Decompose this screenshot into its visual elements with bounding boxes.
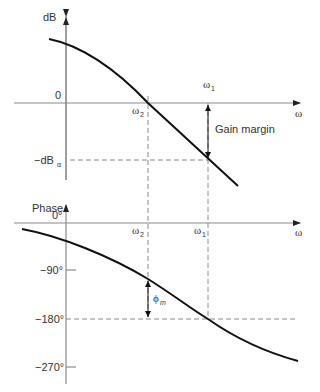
omega2-label: ω 2 [132,104,144,118]
svg-text:1: 1 [202,231,206,238]
phase-omega1-label: ω 1 [194,224,206,238]
db-axis-label: dB [43,11,56,23]
omega1-label: ω 1 [203,78,215,92]
svg-text:1: 1 [211,85,215,92]
phase-omega2-label: ω 2 [132,224,144,238]
gain-margin-label: Gain margin [215,123,275,135]
phase-curve [22,229,298,361]
svg-text:α: α [57,161,61,168]
tick-label-neg180: −180° [35,313,64,325]
tick-label-neg270: −270° [35,361,64,373]
phase-margin-label: ϕ m [153,292,166,306]
svg-text:ϕ: ϕ [153,292,159,304]
svg-text:2: 2 [140,111,144,118]
svg-text:2: 2 [140,231,144,238]
svg-text:−dB: −dB [34,154,54,166]
svg-text:ω: ω [194,224,201,236]
bode-diagram: dB 0 ω ω 2 ω 1 −dB α Gain margin [0,0,320,392]
tick-label-neg90: −90° [40,264,63,276]
phase-plot: Phase 0° ω ω 2 ω 1 −90° −270° −180° ϕ m [14,202,302,384]
svg-text:m: m [160,299,166,306]
svg-text:ω: ω [132,104,139,116]
zero-db-label: 0 [55,89,61,101]
svg-text:ω: ω [132,224,139,236]
zero-degree-label: 0° [52,209,63,221]
magnitude-omega-axis-label: ω [295,107,302,119]
phase-omega-axis-label: ω [295,226,302,238]
svg-text:ω: ω [203,78,210,90]
neg-db-alpha-label: −dB α [34,154,61,168]
